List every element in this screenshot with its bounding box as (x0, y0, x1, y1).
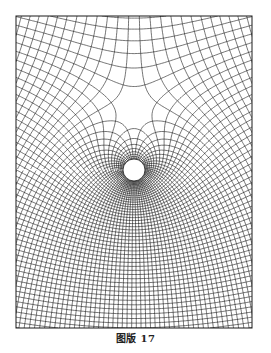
plate-caption: 图版 17 (0, 330, 271, 345)
streamline (40, 171, 101, 329)
streamline (104, 16, 254, 169)
streamline (77, 16, 254, 169)
streamline (16, 171, 62, 286)
equipotential-line (16, 265, 253, 283)
streamline (37, 16, 253, 230)
circular-obstacle (123, 159, 145, 181)
streamline (16, 171, 23, 185)
flow-net-plate (0, 0, 271, 353)
streamline (138, 170, 209, 328)
